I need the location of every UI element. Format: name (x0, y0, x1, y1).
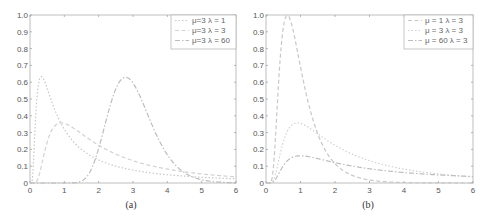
y-tick-label: 0.9 (253, 28, 265, 37)
x-tick-label: 0 (264, 186, 269, 195)
y-tick-label: 0.5 (17, 95, 29, 104)
y-tick-label: 0.8 (253, 45, 265, 54)
y-tick-label: 0.3 (17, 129, 29, 138)
legend-label: μ = 3 λ = 3 (425, 26, 464, 35)
figure: 012345600.10.20.30.40.50.60.70.80.91.0μ=… (0, 0, 490, 218)
x-tick-label: 3 (131, 186, 136, 195)
y-tick-label: 0.4 (253, 112, 265, 121)
x-tick-label: 5 (199, 186, 204, 195)
y-tick-label: 1.0 (253, 11, 265, 20)
y-tick-label: 0 (260, 179, 265, 188)
y-tick-label: 0.3 (253, 129, 265, 138)
y-tick-label: 0.1 (253, 162, 265, 171)
x-tick-label: 6 (471, 186, 476, 195)
legend-label: μ = 1 λ = 3 (425, 16, 464, 25)
x-tick-label: 3 (367, 186, 372, 195)
y-tick-label: 1.0 (17, 11, 29, 20)
y-tick-label: 0.1 (17, 162, 29, 171)
legend-label: μ = 60 λ = 3 (425, 36, 468, 45)
y-tick-label: 0.7 (253, 61, 265, 70)
legend: μ = 1 λ = 3μ = 3 λ = 3μ = 60 λ = 3 (404, 15, 473, 49)
y-tick-label: 0.2 (253, 145, 265, 154)
y-tick-label: 0.4 (17, 112, 29, 121)
y-tick-label: 0.5 (253, 95, 265, 104)
y-tick-label: 0.6 (253, 78, 265, 87)
x-tick-label: 5 (436, 186, 441, 195)
legend-label: μ=3 λ = 60 (192, 36, 231, 45)
x-tick-label: 6 (234, 186, 239, 195)
chart-panel-a: 012345600.10.20.30.40.50.60.70.80.91.0μ=… (17, 11, 239, 211)
x-tick-label: 4 (165, 186, 170, 195)
x-tick-label: 1 (298, 186, 303, 195)
legend-label: μ=3 λ = 3 (192, 26, 226, 35)
y-tick-label: 0.7 (17, 61, 29, 70)
panel-caption: (b) (362, 199, 374, 211)
y-tick-label: 0.9 (17, 28, 29, 37)
x-tick-label: 4 (402, 186, 407, 195)
panel-caption: (a) (125, 199, 136, 211)
y-tick-label: 0 (24, 179, 29, 188)
x-tick-label: 1 (62, 186, 67, 195)
y-tick-label: 0.2 (17, 145, 29, 154)
legend-label: μ=3 λ = 1 (192, 16, 226, 25)
x-tick-label: 0 (28, 186, 33, 195)
x-tick-label: 2 (333, 186, 338, 195)
y-tick-label: 0.8 (17, 45, 29, 54)
chart-panel-b: 012345600.10.20.30.40.50.60.70.80.91.0μ … (253, 11, 476, 211)
legend: μ=3 λ = 1μ=3 λ = 3μ=3 λ = 60 (171, 15, 236, 49)
x-tick-label: 2 (96, 186, 101, 195)
y-tick-label: 0.6 (17, 78, 29, 87)
